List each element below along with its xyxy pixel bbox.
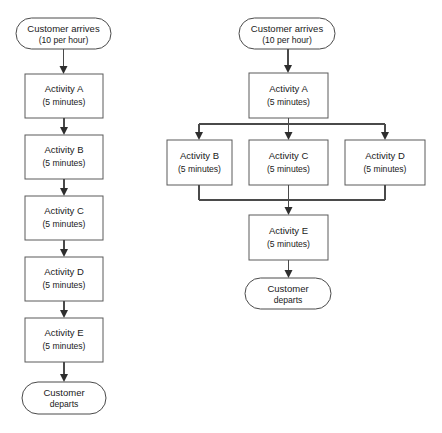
node-right-start: Customer arrives (10 per hour): [239, 18, 335, 49]
node-right-end: Customer departs: [245, 278, 331, 309]
node-right-activity-a-sublabel: (5 minutes): [267, 97, 310, 107]
arrow-head-right-end: [285, 270, 293, 278]
arrow-head-right-d: [381, 132, 389, 140]
node-left-activity-d-label: Activity D: [44, 266, 84, 277]
arrow-head-left-a: [60, 66, 68, 74]
node-left-activity-d-sublabel: (5 minutes): [43, 280, 86, 290]
arrow-head-right-a: [284, 65, 292, 73]
node-right-activity-d: Activity D (5 minutes): [345, 140, 425, 185]
node-right-activity-e: Activity E (5 minutes): [249, 215, 328, 260]
node-right-activity-c-label: Activity C: [269, 150, 309, 161]
node-right-end-sublabel: departs: [274, 295, 303, 305]
arrow-head-left-end: [60, 374, 68, 382]
node-left-activity-b-label: Activity B: [44, 144, 83, 155]
flowchart-diagram: Customer arrives (10 per hour) Activity …: [0, 0, 442, 433]
node-right-activity-c-sublabel: (5 minutes): [267, 164, 310, 174]
node-left-activity-e-sublabel: (5 minutes): [43, 341, 86, 351]
node-right-activity-b: Activity B (5 minutes): [167, 140, 232, 185]
arrow-head-left-e: [60, 310, 68, 318]
node-right-end-label: Customer: [267, 283, 308, 294]
node-right-activity-d-label: Activity D: [365, 150, 405, 161]
arrow-head-right-b: [195, 132, 203, 140]
node-right-activity-e-label: Activity E: [269, 225, 308, 236]
node-left-activity-b-sublabel: (5 minutes): [43, 158, 86, 168]
node-left-start: Customer arrives (10 per hour): [16, 18, 111, 49]
arrow-head-left-c: [60, 188, 68, 196]
node-left-end: Customer departs: [22, 382, 106, 414]
node-left-activity-c-label: Activity C: [44, 205, 84, 216]
node-left-activity-a-label: Activity A: [45, 83, 84, 94]
node-right-activity-a-label: Activity A: [269, 83, 308, 94]
split-bus: [195, 118, 389, 140]
panel-sequential-process: Customer arrives (10 per hour) Activity …: [16, 18, 111, 414]
node-right-start-sublabel: (10 per hour): [262, 35, 312, 45]
merge-bus: [199, 185, 385, 215]
node-right-activity-b-label: Activity B: [180, 150, 219, 161]
arrow-head-right-c: [285, 132, 293, 140]
node-right-activity-d-sublabel: (5 minutes): [364, 164, 407, 174]
node-right-activity-b-sublabel: (5 minutes): [178, 164, 221, 174]
node-left-activity-a: Activity A (5 minutes): [25, 74, 103, 118]
node-left-activity-c: Activity C (5 minutes): [25, 196, 103, 240]
node-right-activity-e-sublabel: (5 minutes): [267, 239, 310, 249]
arrow-head-left-d: [60, 249, 68, 257]
node-left-activity-b: Activity B (5 minutes): [25, 135, 103, 179]
node-right-start-label: Customer arrives: [251, 23, 324, 34]
node-left-activity-c-sublabel: (5 minutes): [43, 219, 86, 229]
node-left-end-sublabel: departs: [50, 399, 79, 409]
node-left-activity-d: Activity D (5 minutes): [25, 257, 103, 301]
node-left-end-label: Customer: [43, 387, 84, 398]
node-left-start-sublabel: (10 per hour): [39, 35, 89, 45]
node-right-activity-a: Activity A (5 minutes): [249, 73, 328, 118]
node-left-activity-e: Activity E (5 minutes): [25, 318, 103, 362]
node-left-activity-e-label: Activity E: [44, 327, 83, 338]
node-right-activity-c: Activity C (5 minutes): [249, 140, 328, 185]
node-left-activity-a-sublabel: (5 minutes): [43, 97, 86, 107]
node-left-start-label: Customer arrives: [27, 23, 100, 34]
panel-parallel-process: Customer arrives (10 per hour) Activity …: [167, 18, 425, 309]
arrow-head-left-b: [60, 127, 68, 135]
arrow-head-right-e: [285, 207, 293, 215]
